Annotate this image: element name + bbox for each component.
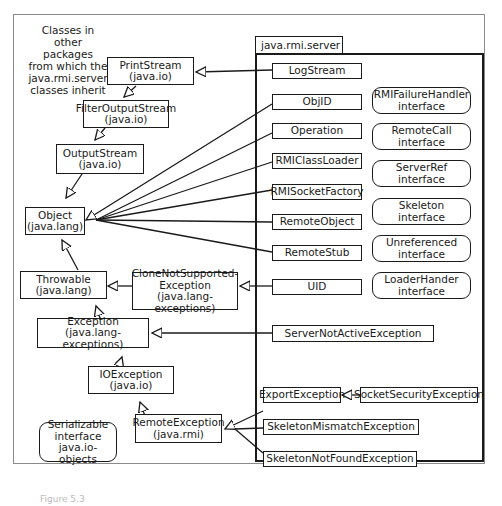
class-skeletonnotfoundexception[interactable]: SkeletonNotFoundException [263,451,417,467]
class-package: (java.lang-exceptions) [133,291,237,314]
interface-serverref[interactable]: ServerRef interface [372,160,471,187]
class-package: (java.io) [105,114,148,126]
class-name: SkeletonMismatchException [267,421,415,433]
interface-kind: interface [398,174,445,186]
interface-kind: interface [398,101,445,113]
class-name: RMIClassLoader [275,155,358,167]
class-logstream[interactable]: LogStream [272,63,362,79]
class-outputstream[interactable]: OutputStream (java.io) [56,144,144,174]
class-socketsecurityexception[interactable]: SocketSecurityException [360,387,478,403]
interface-name: LoaderHander [384,274,458,286]
interface-unreferenced[interactable]: Unreferenced interface [372,235,471,262]
interface-package: java.io-objects [40,442,116,465]
interface-skeleton[interactable]: Skeleton interface [372,198,471,225]
package-tab: java.rmi.server [255,36,343,54]
class-remoteexception[interactable]: RemoteException (java.rmi) [135,414,222,443]
interface-remotecall[interactable]: RemoteCall interface [372,123,471,150]
class-servernotactiveexception[interactable]: ServerNotActiveException [272,325,434,342]
class-name: ObjID [302,96,331,108]
note-line: java.rmi.server [28,72,108,84]
class-printstream[interactable]: PrintStream (java.io) [107,57,194,85]
class-remotestub[interactable]: RemoteStub [272,245,362,261]
note-line: other packages [28,36,108,60]
class-object[interactable]: Object (java.lang) [25,207,85,235]
class-exportexception[interactable]: ExportException [263,387,341,403]
interface-kind: interface [398,137,445,149]
class-ioexception[interactable]: IOException (java.io) [88,366,174,394]
interface-kind: interface [398,212,445,224]
class-package: (java.io) [79,159,122,171]
class-name: CloneNotSupported- [132,268,239,280]
class-name: ExportException [259,389,345,401]
interface-name: RMIFailureHandler [374,89,469,101]
interface-kind: interface [398,286,445,298]
interface-kind: interface [398,249,445,261]
class-name: RemoteException [132,417,224,429]
class-name: RemoteObject [280,216,355,228]
note-line: classes inherit [28,84,108,96]
class-clonenotsupportedexception[interactable]: CloneNotSupported- Exception (java.lang-… [132,272,238,310]
class-filteroutputstream[interactable]: FilterOutputStream (java.io) [83,100,169,128]
class-skeletonmismatchexception[interactable]: SkeletonMismatchException [263,419,419,435]
class-package: (java.rmi) [153,429,204,441]
interface-name: Skeleton [399,200,444,212]
interface-name: ServerRef [396,162,447,174]
class-rmiclassloader[interactable]: RMIClassLoader [272,153,362,169]
class-package: (java.lang) [35,285,91,297]
class-operation[interactable]: Operation [272,123,362,139]
external-classes-note: Classes in other packages from which the… [28,24,108,96]
class-uid[interactable]: UID [272,279,362,295]
class-throwable[interactable]: Throwable (java.lang) [20,271,107,299]
class-name: LogStream [289,65,346,77]
class-name: ServerNotActiveException [285,328,422,340]
note-line: from which the [28,60,108,72]
class-package: (java.lang) [27,221,83,233]
interface-rmifailurehandler[interactable]: RMIFailureHandler interface [372,87,471,114]
class-name: RemoteStub [285,247,350,259]
class-package: (java.io) [129,71,172,83]
class-name: UID [308,281,327,293]
class-objid[interactable]: ObjID [272,94,362,110]
class-exception[interactable]: Exception (java.lang-exceptions) [37,318,149,348]
class-package: (java.lang-exceptions) [38,327,148,350]
note-line: Classes in [28,24,108,36]
class-name: SocketSecurityException [354,389,484,401]
interface-loaderhander[interactable]: LoaderHander interface [372,272,471,299]
class-remoteobject[interactable]: RemoteObject [272,214,362,230]
interface-name: RemoteCall [391,125,451,137]
figure-caption: Figure 5.3 [40,494,85,504]
interface-serializable[interactable]: Serializable interface java.io-objects [39,422,117,462]
class-name: SkeletonNotFoundException [266,453,414,465]
interface-name: Unreferenced [386,237,457,249]
class-rmisocketfactory[interactable]: RMISocketFactory [272,184,362,200]
interface-name: Serializable [48,419,109,431]
class-package: (java.io) [110,380,153,392]
class-name: RMISocketFactory [271,186,364,198]
class-name: Operation [291,125,343,137]
